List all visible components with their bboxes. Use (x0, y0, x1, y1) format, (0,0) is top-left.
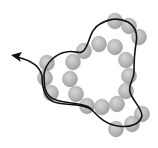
bead (119, 52, 134, 68)
bead (40, 55, 55, 71)
arrowhead-icon (11, 52, 22, 62)
bead (108, 13, 123, 29)
bead (92, 36, 107, 52)
bead (110, 96, 125, 112)
bead (95, 99, 110, 115)
bead (108, 39, 123, 55)
bead-group (38, 13, 150, 137)
bead (69, 86, 84, 102)
diagram-svg (0, 0, 158, 148)
bead (66, 54, 81, 70)
diagram-canvas (0, 0, 158, 148)
bead (63, 71, 78, 87)
bead (125, 116, 140, 132)
bead (132, 29, 147, 45)
